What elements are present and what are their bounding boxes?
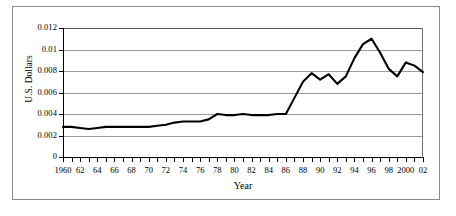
y-tick-label: 0.004	[11, 109, 57, 118]
y-tick-label: 0.002	[11, 131, 57, 140]
x-tick-label: 66	[110, 165, 119, 175]
series-line-chart	[63, 28, 423, 157]
x-tick-label: 78	[213, 165, 222, 175]
x-tick-label: 02	[419, 165, 428, 175]
x-axis-title: Year	[63, 180, 423, 191]
x-tick-label: 62	[76, 165, 85, 175]
x-tick-label: 96	[367, 165, 376, 175]
x-tick-label: 94	[350, 165, 359, 175]
x-tick-label: 92	[333, 165, 342, 175]
x-tick-label: 86	[282, 165, 291, 175]
x-tick-label: 84	[264, 165, 273, 175]
y-tick-label: 0	[11, 152, 57, 161]
y-tick-label: 0.008	[11, 66, 57, 75]
x-axis-line	[63, 157, 423, 158]
x-tick-label: 82	[247, 165, 256, 175]
chart-figure: U.S. Dollars 0.0120.010.0080.0060.0040.0…	[0, 0, 456, 216]
x-tick-label: 68	[127, 165, 136, 175]
y-tick-label: 0.01	[11, 45, 57, 54]
x-tick-label: 98	[384, 165, 393, 175]
x-tick-label: 80	[230, 165, 239, 175]
y-tick-label: 0.006	[11, 88, 57, 97]
y-tick-label: 0.012	[11, 23, 57, 32]
page-edge-margin	[0, 0, 7, 216]
x-tick-mark	[423, 157, 424, 162]
series-polyline	[63, 39, 423, 129]
x-tick-label: 76	[196, 165, 205, 175]
x-tick-label: 64	[93, 165, 102, 175]
x-tick-label: 90	[316, 165, 325, 175]
x-tick-label: 1960	[55, 165, 72, 175]
x-tick-label: 72	[162, 165, 171, 175]
x-tick-label: 2000	[397, 165, 414, 175]
x-tick-label: 88	[299, 165, 308, 175]
x-tick-label: 74	[179, 165, 188, 175]
x-tick-label: 70	[144, 165, 153, 175]
